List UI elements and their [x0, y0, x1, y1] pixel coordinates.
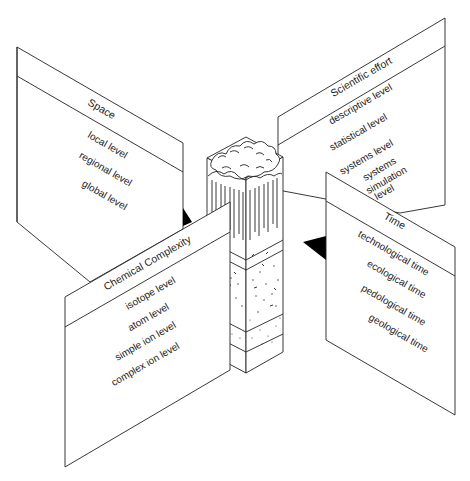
column-right-face [246, 157, 283, 373]
diagram-canvas: Space local level regional level global … [0, 0, 470, 481]
scientific-effort-panel: Scientific effort descriptive level stat… [278, 18, 445, 213]
space-connector-triangle [183, 208, 192, 226]
time-connector-triangle [303, 236, 326, 260]
scientific-effort-panel-body [278, 18, 445, 213]
